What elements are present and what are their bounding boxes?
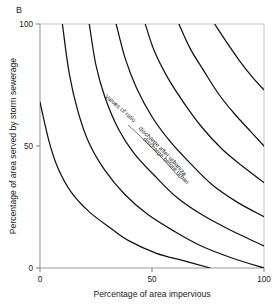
y-tick-labels: 100 50 0 xyxy=(19,20,33,273)
x-tick-label-50: 50 xyxy=(147,275,157,284)
figure-panel-b: B 100 50 0 xyxy=(0,0,280,305)
nomograph-chart: 100 50 0 0 50 100 Percentage of area imp… xyxy=(0,0,280,305)
x-axis-title: Percentage of area impervious xyxy=(93,289,210,299)
panel-label: B xyxy=(16,5,22,15)
y-axis-title: Percentage of area served by storm sewer… xyxy=(8,58,18,234)
x-tick-labels: 0 50 100 xyxy=(38,275,272,284)
x-tick-label-100: 100 xyxy=(257,275,271,284)
y-tick-label-0: 0 xyxy=(28,264,33,273)
x-tick-label-0: 0 xyxy=(38,275,43,284)
y-tick-label-100: 100 xyxy=(19,20,33,29)
y-tick-label-50: 50 xyxy=(24,142,34,151)
